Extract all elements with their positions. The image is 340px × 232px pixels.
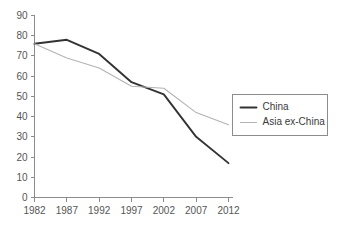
x-tick-label: 2002: [153, 205, 176, 216]
y-tick-label: 30: [16, 131, 28, 142]
y-tick-label: 40: [16, 111, 28, 122]
legend-label: China: [263, 101, 290, 112]
y-tick-label: 10: [16, 172, 28, 183]
y-tick-label: 70: [16, 50, 28, 61]
y-tick-label: 80: [16, 30, 28, 41]
chart-canvas: 0102030405060708090 19821987199219972002…: [0, 0, 340, 232]
x-tick-label: 1992: [88, 205, 111, 216]
chart-legend: ChinaAsia ex-China: [233, 95, 328, 136]
series-line-asia-ex-china: [35, 44, 229, 125]
y-tick-label: 60: [16, 71, 28, 82]
y-tick-label: 90: [16, 10, 28, 21]
y-tick-label: 50: [16, 91, 28, 102]
y-axis: 0102030405060708090: [16, 10, 34, 203]
x-tick-label: 1997: [120, 205, 143, 216]
x-tick-label: 2012: [217, 205, 240, 216]
legend-label: Asia ex-China: [263, 116, 326, 127]
series-line-china: [35, 40, 229, 163]
y-tick-label: 20: [16, 152, 28, 163]
x-tick-label: 2007: [185, 205, 208, 216]
data-series-group: [35, 40, 229, 163]
x-tick-label: 1982: [23, 205, 46, 216]
x-tick-label: 1987: [56, 205, 79, 216]
x-axis: 1982198719921997200220072012: [23, 198, 240, 216]
line-chart: 0102030405060708090 19821987199219972002…: [0, 0, 340, 232]
y-tick-label: 0: [22, 192, 28, 203]
